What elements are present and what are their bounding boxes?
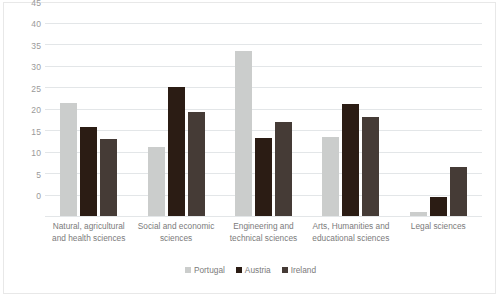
y-axis-tick-label: 10 [15,148,41,158]
category-label: Social and economic sciences [132,221,219,244]
bar-austria[interactable] [168,87,185,216]
bar-portugal[interactable] [148,147,165,216]
bar-austria[interactable] [80,127,97,216]
bar-portugal[interactable] [60,103,77,216]
y-axis-tick-label: 15 [15,127,41,137]
category-label: Arts, Humanities and educational science… [307,221,394,244]
y-axis-tick-label: 20 [15,105,41,115]
bar-ireland[interactable] [100,139,117,216]
chart-legend: PortugalAustriaIreland [4,265,497,275]
legend-swatch-icon [236,267,242,273]
category-label: Engineering and technical sciences [220,221,307,244]
bar-portugal[interactable] [235,51,252,216]
bar-portugal[interactable] [322,137,339,216]
bar-group [60,23,117,216]
y-axis-tick-label: 5 [15,170,41,180]
category-label: Natural, agricultural and health science… [45,221,132,244]
plot-area [45,23,482,216]
y-axis-tick-label: 25 [15,84,41,94]
bar-ireland[interactable] [362,117,379,217]
legend-swatch-icon [185,267,191,273]
chart-frame: 454035302520151050 Natural, agricultural… [3,2,496,294]
legend-label: Ireland [291,265,316,275]
category-label: Legal sciences [395,221,482,233]
legend-label: Austria [245,265,271,275]
y-axis-tick-label: 45 [15,0,41,8]
legend-item-austria[interactable]: Austria [236,265,271,275]
y-axis: 454035302520151050 [9,3,41,216]
gridline [45,216,482,217]
bar-group [235,23,292,216]
legend-label: Portugal [194,265,225,275]
bar-austria[interactable] [255,138,272,216]
category-axis: Natural, agricultural and health science… [45,221,482,253]
legend-item-portugal[interactable]: Portugal [185,265,225,275]
bar-group [148,23,205,216]
legend-item-ireland[interactable]: Ireland [282,265,316,275]
bar-group [410,23,467,216]
y-axis-tick-label: 0 [15,191,41,201]
bar-ireland[interactable] [188,112,205,216]
bar-ireland[interactable] [275,122,292,216]
bar-group [322,23,379,216]
y-axis-tick-label: 30 [15,62,41,72]
y-axis-tick-label: 35 [15,41,41,51]
bar-portugal[interactable] [410,212,427,216]
bar-austria[interactable] [430,197,447,216]
bar-ireland[interactable] [450,167,467,216]
legend-swatch-icon [282,267,288,273]
bar-austria[interactable] [342,104,359,216]
y-axis-tick-label: 40 [15,19,41,29]
